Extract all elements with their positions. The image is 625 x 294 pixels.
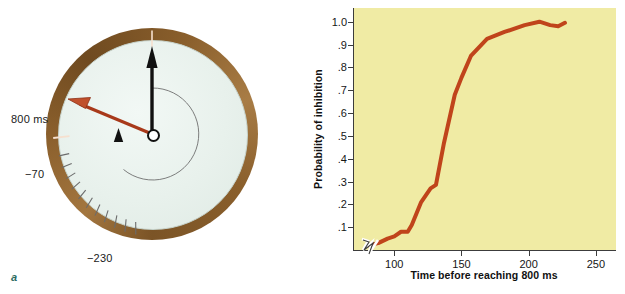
y-tick-label: .2	[338, 198, 347, 210]
y-tick	[348, 159, 354, 160]
x-axis-break-icon	[360, 239, 380, 257]
y-tick-label: .3	[338, 176, 347, 188]
y-tick	[348, 182, 354, 183]
data-line-series	[354, 8, 616, 250]
red-hand	[68, 98, 152, 135]
y-tick-label: .4	[338, 153, 347, 165]
label-minus-70: −70	[25, 168, 44, 180]
label-minus-230: −230	[87, 252, 113, 264]
plot-area: .1.2.3.4.5.6.7.8.91.0100150200250	[353, 8, 616, 251]
x-tick	[529, 250, 530, 256]
panel-a-clock-dial: 800 ms −70 −230 a	[0, 0, 313, 294]
y-tick	[348, 227, 354, 228]
y-tick	[348, 45, 354, 46]
y-axis-title: Probability of inhibition	[311, 8, 325, 250]
y-tick-label: .5	[338, 130, 347, 142]
x-tick	[461, 250, 462, 256]
y-tick-label: .7	[338, 84, 347, 96]
y-tick	[348, 136, 354, 137]
y-tick-label: .8	[338, 61, 347, 73]
x-axis-title: Time before reaching 800 ms	[353, 269, 615, 281]
clock-dial	[47, 29, 257, 239]
y-tick	[348, 22, 354, 23]
label-800ms: 800 ms	[11, 113, 48, 125]
panel-b-line-chart: Probability of inhibition .1.2.3.4.5.6.7…	[313, 0, 625, 294]
y-tick	[348, 204, 354, 205]
black-hand	[146, 46, 157, 134]
small-pointer	[114, 128, 123, 142]
y-axis-title-text: Probability of inhibition	[312, 69, 324, 189]
figure-root: 800 ms −70 −230 a Probability of inhibit…	[0, 0, 625, 294]
y-tick-label: .1	[338, 221, 347, 233]
y-tick-label: .6	[338, 107, 347, 119]
panel-letter-a: a	[11, 271, 17, 283]
dial-hub	[147, 129, 160, 142]
y-tick-label: .9	[338, 39, 347, 51]
x-tick	[394, 250, 395, 256]
x-tick	[596, 250, 597, 256]
y-tick-label: 1.0	[332, 16, 347, 28]
y-tick	[348, 67, 354, 68]
y-tick	[348, 90, 354, 91]
y-tick	[348, 113, 354, 114]
